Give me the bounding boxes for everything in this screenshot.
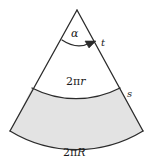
slant-lower-label: s bbox=[127, 89, 132, 99]
geometry-figure: α t s 2πr 2πR bbox=[0, 0, 153, 165]
outer-arc-label: 2πR bbox=[63, 147, 86, 158]
apex-angle-label: α bbox=[71, 28, 78, 39]
slant-upper-label: t bbox=[101, 38, 105, 48]
inner-arc-label: 2πr bbox=[66, 76, 86, 87]
